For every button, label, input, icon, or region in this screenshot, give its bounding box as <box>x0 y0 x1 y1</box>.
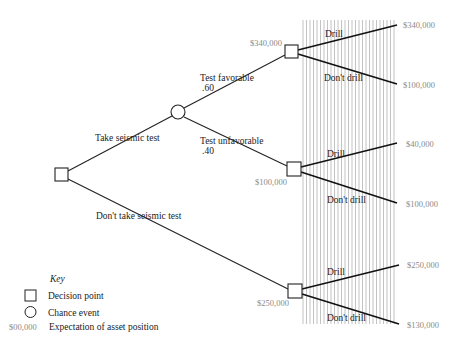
unfavorable-prob: .40 <box>202 146 214 156</box>
key-expectation-label: Expectation of asset position <box>49 322 159 332</box>
legend-key: Key Decision point Chance event $00,000 … <box>9 274 159 332</box>
key-chance-label: Chance event <box>48 308 100 318</box>
unfav-expectation: $100,000 <box>255 177 287 187</box>
fav-decision-node <box>285 45 298 58</box>
key-chance-icon <box>25 307 36 318</box>
decision-tree-diagram: Take seismic test Don't take seismic tes… <box>0 0 466 352</box>
outcome-unfav-drill: $40,000 <box>406 139 434 149</box>
notest-expectation: $250,000 <box>257 298 289 308</box>
notest-dont-label: Don't drill <box>327 313 366 323</box>
outcome-notest-drill: $250,000 <box>407 260 439 270</box>
test-chance-node <box>171 105 185 119</box>
branch-no-test <box>68 179 288 289</box>
fav-expectation: $340,000 <box>250 38 282 48</box>
key-title: Key <box>49 274 66 284</box>
hatched-region <box>303 20 394 324</box>
outcome-notest-dont: $130,000 <box>407 320 439 330</box>
notest-drill-label: Drill <box>327 267 345 277</box>
branch-unfav-drill <box>301 143 397 167</box>
take-test-label: Take seismic test <box>95 133 160 143</box>
unfav-decision-node <box>287 162 301 176</box>
key-expectation-sample: $00,000 <box>9 322 37 332</box>
root-decision-node <box>55 168 68 181</box>
fav-drill-label: Drill <box>325 29 343 39</box>
key-decision-label: Decision point <box>48 291 104 301</box>
favorable-prob: .60 <box>202 83 214 93</box>
unfavorable-label: Test unfavorable <box>200 136 263 146</box>
key-decision-icon <box>25 290 36 301</box>
favorable-label: Test favorable <box>200 73 254 83</box>
outcome-fav-dont: $100,000 <box>403 80 435 90</box>
no-test-label: Don't take seismic test <box>96 211 182 221</box>
fav-dont-label: Don't drill <box>324 73 363 83</box>
outcome-unfav-dont: $100,000 <box>406 199 438 209</box>
outcome-fav-drill: $340,000 <box>403 20 435 30</box>
unfav-drill-label: Drill <box>327 149 345 159</box>
notest-decision-node <box>288 284 302 298</box>
branch-notest-drill <box>302 265 399 289</box>
branch-fav-drill <box>298 25 397 50</box>
branch-take-test <box>68 116 172 171</box>
unfav-dont-label: Don't drill <box>327 195 366 205</box>
